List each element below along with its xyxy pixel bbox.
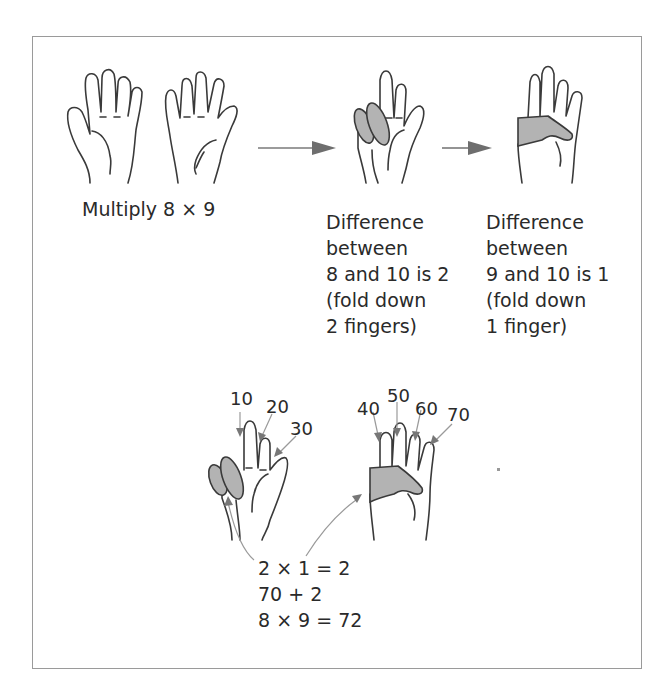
step1-caption: Difference between 8 and 10 is 2 (fold d… [326,209,449,339]
caption-multiply: Multiply 8 × 9 [82,196,215,222]
folded-thumb [370,466,422,502]
folded-thumb [518,116,572,146]
result-block: 2 × 1 = 2 70 + 2 8 × 9 = 72 [258,555,362,633]
result-line: 2 × 1 = 2 [258,555,362,581]
open-hand-icon [165,72,237,183]
finger-label: 70 [447,404,470,425]
caption-line: between [486,235,609,261]
caption-line: 9 and 10 is 1 [486,261,609,287]
caption-line: 2 fingers) [326,313,449,339]
finger-label: 60 [415,398,438,419]
step2-caption: Difference between 9 and 10 is 1 (fold d… [486,209,609,339]
finger-label: 50 [387,385,410,406]
finger-label: 40 [357,398,380,419]
result-line: 70 + 2 [258,581,362,607]
right-arrow-icon [258,141,336,155]
right-arrow-icon [442,141,492,155]
caption-line: between [326,235,449,261]
caption-line: (fold down [486,287,609,313]
caption-line: Difference [486,209,609,235]
result-line: 8 × 9 = 72 [258,607,362,633]
caption-line: 1 finger) [486,313,609,339]
finger-label: 10 [230,388,253,409]
stray-dot [497,468,500,471]
finger-label: 20 [266,396,289,417]
open-hand-icon [68,70,142,183]
caption-line: (fold down [326,287,449,313]
caption-line: 8 and 10 is 2 [326,261,449,287]
caption-line: Difference [326,209,449,235]
pointer-arrow-icon [224,494,362,560]
finger-label: 30 [290,418,313,439]
